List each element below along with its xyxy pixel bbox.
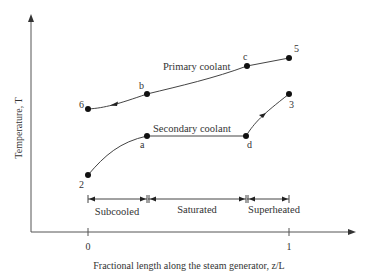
x-tick-label-1: 1 <box>287 241 292 252</box>
point-a-label: a <box>140 139 145 150</box>
region-saturated-label: Saturated <box>177 204 217 215</box>
arrowhead-right-icon <box>239 197 245 202</box>
x-axis-arrow-icon <box>348 229 356 235</box>
region-saturated <box>148 195 246 203</box>
arrowhead-left-icon <box>150 197 156 202</box>
point-5-label: 5 <box>294 43 299 54</box>
point-5 <box>286 55 292 61</box>
arrowhead-right-icon <box>282 197 288 202</box>
x-axis-title: Fractional length along the steam genera… <box>93 260 284 271</box>
point-b <box>144 91 150 97</box>
region-superheated <box>247 195 289 203</box>
primary-flow-arrow-icon <box>110 102 118 107</box>
point-b-label: b <box>139 80 144 91</box>
x-axis <box>31 228 356 236</box>
region-superheated-label: Superheated <box>248 204 301 215</box>
region-subcooled <box>88 195 147 203</box>
y-axis-arrow-icon <box>28 14 34 22</box>
arrowhead-left-icon <box>89 197 95 202</box>
arrowhead-left-icon <box>249 197 255 202</box>
secondary-coolant-label: Secondary coolant <box>153 123 231 134</box>
arrowhead-right-icon <box>140 197 146 202</box>
point-d-label: d <box>247 139 252 150</box>
primary-coolant-label: Primary coolant <box>163 61 230 72</box>
region-subcooled-label: Subcooled <box>95 206 140 217</box>
point-2-label: 2 <box>79 179 84 190</box>
point-2 <box>85 172 91 178</box>
point-c <box>244 63 250 69</box>
point-3 <box>286 91 292 97</box>
point-6 <box>85 106 91 112</box>
secondary-flow-arrow-icon <box>259 113 266 118</box>
point-6-label: 6 <box>79 99 84 110</box>
x-tick-label-0: 0 <box>86 241 91 252</box>
y-axis <box>28 14 34 232</box>
y-axis-title: Temperature, T <box>13 97 24 158</box>
steam-generator-temperature-diagram: 0 1 Fractional length along the steam ge… <box>0 0 376 278</box>
point-a <box>144 133 150 139</box>
point-c-label: c <box>243 51 248 62</box>
point-3-label: 3 <box>289 99 294 110</box>
